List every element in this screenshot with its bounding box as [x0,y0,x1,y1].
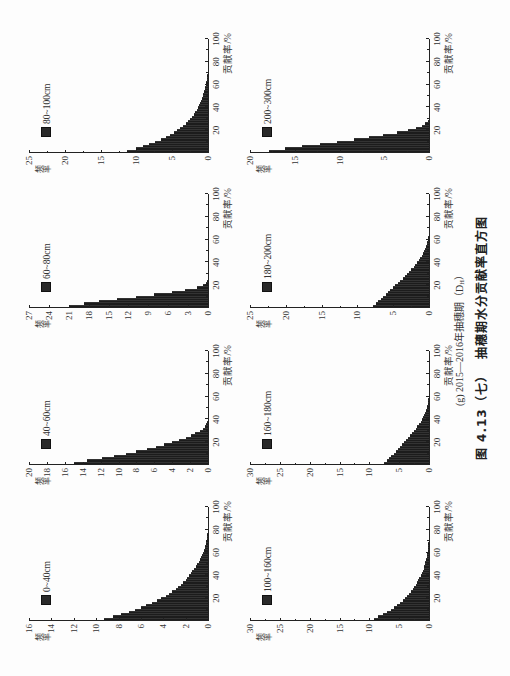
x-minor-tick [427,453,429,454]
x-minor-tick [427,361,429,362]
histogram-bar [387,611,429,613]
y-tick-mark [286,305,287,308]
histogram-panel: 05101520253020406080100贡献率/%频率100~160cm [250,507,429,621]
y-tick-label: 8 [130,468,142,495]
plot-area [29,193,208,307]
histogram-bar [376,302,429,304]
y-tick-mark [208,618,209,621]
histogram-bar [186,437,208,439]
x-minor-tick [206,95,208,96]
x-tick-mark [426,529,429,530]
y-tick-mark [188,305,189,308]
histogram-bar [186,579,208,581]
y-tick-mark [369,462,370,465]
y-tick-label: 25 [23,156,35,183]
y-tick-label: 30 [244,624,256,651]
histogram-bar [420,257,429,259]
histogram-bar [197,109,208,111]
y-minor-tick [272,151,273,153]
y-tick-mark [384,150,385,153]
x-tick-label: 80 [432,362,443,386]
legend-label: 40~60cm [42,400,52,436]
histogram-bar [414,266,429,268]
y-tick-label: 25 [274,624,286,651]
histogram-bar [161,597,208,599]
legend-swatch [41,595,51,605]
x-minor-tick [427,49,429,50]
y-minor-tick [265,619,266,621]
x-tick-mark [205,261,208,262]
legend: 80~100cm [41,84,52,138]
legend: 40~60cm [41,400,52,449]
x-tick-mark [426,418,429,419]
x-tick-label: 20 [432,430,443,454]
y-tick-mark [96,618,97,621]
x-tick-mark [205,597,208,598]
y-tick-label: 16 [23,624,35,651]
y-tick-label: 20 [23,468,35,495]
y-axis-label: 频率 [35,320,51,329]
x-tick-label: 60 [211,73,222,97]
y-tick-mark [51,618,52,621]
plot-area [250,350,429,464]
y-minor-tick [119,151,120,153]
histogram-bar [126,453,208,455]
histogram-bar [285,147,429,149]
x-minor-tick [206,407,208,408]
y-tick-mark [399,618,400,621]
x-minor-tick [206,563,208,564]
x-tick-mark [205,193,208,194]
histogram-bar [383,613,429,615]
x-tick-label: 20 [211,118,222,142]
histogram-bar [422,255,429,257]
x-tick-label: 20 [432,586,443,610]
y-minor-tick [407,151,408,153]
legend-swatch [41,127,51,137]
histogram-bar [155,141,208,143]
y-axis-label: 频率 [35,633,51,642]
x-axis-line [429,39,430,153]
histogram-bar [400,446,429,448]
y-tick-mark [310,618,311,621]
x-minor-tick [206,517,208,518]
y-tick-mark [295,150,296,153]
x-minor-tick [427,517,429,518]
y-minor-tick [154,151,155,153]
x-minor-tick [206,586,208,587]
histogram-bar [188,120,208,122]
legend: 0~40cm [41,561,52,605]
plot-area [250,193,429,307]
x-minor-tick [427,296,429,297]
y-tick-label: 25 [244,311,256,338]
y-tick-label: 4 [157,624,169,651]
histogram-bar [157,600,208,602]
y-tick-label: 5 [166,156,178,183]
histogram-bar [197,287,208,289]
x-minor-tick [206,227,208,228]
y-tick-mark [429,618,430,621]
histogram-bar [383,134,429,136]
histogram-bar [421,421,429,423]
x-tick-label: 80 [211,518,222,542]
x-minor-tick [206,273,208,274]
y-tick-label: 8 [113,624,125,651]
y-tick-mark [190,462,191,465]
y-minor-tick [295,463,296,465]
y-tick-mark [83,462,84,465]
plot-area [29,350,208,464]
histogram-bar [201,556,208,558]
histogram-bar [176,588,208,590]
x-axis-line [429,194,430,308]
y-tick-mark [69,305,70,308]
y-tick-label: 9 [142,311,154,338]
histogram-bar [84,302,208,304]
x-minor-tick [427,563,429,564]
histogram-bar [170,134,208,136]
legend-swatch [262,282,272,292]
y-tick-label: 10 [363,624,375,651]
y-tick-mark [141,618,142,621]
subcaption-subscript: H [458,280,465,285]
histogram-bar [200,102,208,104]
histogram-bar [113,615,208,617]
histogram-bar [143,145,208,147]
